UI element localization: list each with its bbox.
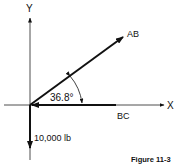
vector-ab <box>30 37 123 105</box>
figure-caption: Figure 11-3 <box>131 155 171 164</box>
x-axis-label: X <box>167 100 174 111</box>
y-axis-label: Y <box>26 3 33 14</box>
force-diagram: Y X AB BC 10,000 lb 36.8° Figure 11-3 <box>0 0 176 166</box>
angle-label: 36.8° <box>50 92 73 103</box>
vector-bc-label: BC <box>117 111 130 121</box>
vector-ab-label: AB <box>127 29 139 39</box>
load-label: 10,000 lb <box>34 133 71 143</box>
